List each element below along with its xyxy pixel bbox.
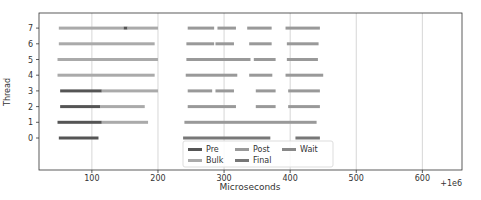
bar-segment-post: [256, 89, 276, 92]
x-tick-label: 600: [415, 174, 430, 183]
bar-segment-bulk: [58, 74, 155, 77]
legend-label-bulk: Bulk: [206, 156, 224, 165]
bar-segment-bulk: [100, 105, 144, 108]
y-tick-label: 7: [28, 24, 33, 33]
bar-segment-post: [217, 27, 236, 30]
bar-segment-bulk: [59, 27, 124, 30]
chart-svg: 100200300400500600 01234567 Microseconds…: [0, 0, 481, 200]
bar-segment-final: [183, 137, 270, 140]
x-offset-label: +1e6: [440, 179, 462, 188]
bars: [58, 27, 324, 140]
bar-segment-post: [184, 121, 316, 124]
bar-segment-pre: [58, 121, 102, 124]
bar-segment-post: [256, 105, 276, 108]
bar-segment-post: [186, 74, 238, 77]
bar-segment-post: [249, 74, 272, 77]
y-tick-label: 5: [28, 56, 33, 65]
bar-segment-post: [288, 89, 320, 92]
y-axis-ticks: 01234567: [28, 24, 39, 143]
bar-segment-post: [254, 58, 276, 61]
legend-label-post: Post: [253, 145, 270, 154]
x-tick-label: 400: [283, 174, 298, 183]
bar-segment-bulk: [102, 121, 148, 124]
bar-segment-bulk: [59, 42, 155, 45]
gantt-chart: 100200300400500600 01234567 Microseconds…: [0, 0, 481, 200]
bar-segment-bulk: [128, 27, 158, 30]
bar-segment-pre: [124, 27, 128, 30]
bar-segment-pre: [60, 89, 102, 92]
bar-segment-post: [286, 74, 324, 77]
x-tick-label: 100: [84, 174, 99, 183]
legend-swatch-bulk: [188, 159, 202, 162]
bar-segment-post: [186, 42, 214, 45]
bar-segment-pre: [60, 105, 100, 108]
bar-segment-post: [287, 58, 318, 61]
legend: PreBulkPostFinalWait: [183, 141, 333, 167]
legend-label-wait: Wait: [300, 145, 318, 154]
y-tick-label: 1: [28, 118, 33, 127]
bar-segment-post: [215, 42, 234, 45]
y-tick-label: 6: [28, 40, 33, 49]
legend-swatch-wait: [282, 148, 296, 151]
bar-segment-post: [186, 58, 250, 61]
x-tick-label: 500: [349, 174, 364, 183]
bar-segment-post: [188, 27, 214, 30]
legend-swatch-pre: [188, 148, 202, 151]
y-tick-label: 3: [28, 87, 33, 96]
x-axis-label: Microseconds: [219, 182, 280, 192]
bar-segment-pre: [59, 137, 99, 140]
bar-segment-post: [188, 89, 212, 92]
bar-segment-post: [188, 105, 236, 108]
bar-segment-post: [287, 42, 319, 45]
bar-segment-post: [286, 27, 320, 30]
y-tick-label: 0: [28, 134, 33, 143]
bar-segment-final: [295, 137, 319, 140]
legend-label-final: Final: [253, 156, 271, 165]
legend-label-pre: Pre: [206, 145, 219, 154]
bar-segment-post: [288, 105, 320, 108]
x-tick-label: 200: [150, 174, 165, 183]
y-tick-label: 2: [28, 103, 33, 112]
bar-segment-post: [247, 27, 271, 30]
legend-swatch-final: [235, 159, 249, 162]
y-tick-label: 4: [28, 71, 33, 80]
bar-segment-bulk: [102, 89, 158, 92]
legend-swatch-post: [235, 148, 249, 151]
y-axis-label: Thread: [3, 78, 12, 107]
bar-segment-post: [249, 42, 271, 45]
bar-segment-bulk: [58, 58, 158, 61]
bar-segment-post: [215, 89, 234, 92]
